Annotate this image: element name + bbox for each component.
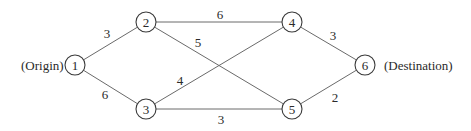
nodes: 1 2 3 4 5 6 (65, 12, 375, 119)
node-5: 5 (282, 99, 302, 119)
edge-weight-4-6: 3 (330, 28, 337, 43)
node-3: 3 (136, 99, 156, 119)
node-label: 4 (289, 15, 296, 30)
edge-weight-5-6: 2 (332, 90, 339, 105)
node-label: 1 (72, 58, 79, 73)
origin-label: (Origin) (21, 58, 64, 73)
edge-weight-1-2: 3 (104, 26, 111, 41)
edge-5-6 (292, 65, 365, 109)
node-label: 2 (143, 15, 150, 30)
edge-weight-2-4: 6 (217, 7, 224, 22)
edge-weight-3-5: 3 (218, 112, 225, 127)
destination-label: (Destination) (384, 58, 453, 73)
node-2: 2 (136, 12, 156, 32)
edge-1-3 (75, 65, 146, 109)
node-label: 6 (362, 58, 369, 73)
network-diagram: 3 6 6 5 4 3 3 2 1 2 3 4 5 6 (0, 0, 471, 131)
edge-weight-3-4: 4 (177, 73, 184, 88)
edges (75, 22, 365, 109)
node-4: 4 (282, 12, 302, 32)
node-label: 3 (143, 102, 150, 117)
edge-weight-1-3: 6 (102, 87, 109, 102)
node-1: 1 (65, 55, 85, 75)
edge-weight-2-5: 5 (195, 35, 202, 50)
edge-1-2 (75, 22, 146, 65)
edge-4-6 (292, 22, 365, 65)
node-label: 5 (289, 102, 296, 117)
node-6: 6 (355, 55, 375, 75)
